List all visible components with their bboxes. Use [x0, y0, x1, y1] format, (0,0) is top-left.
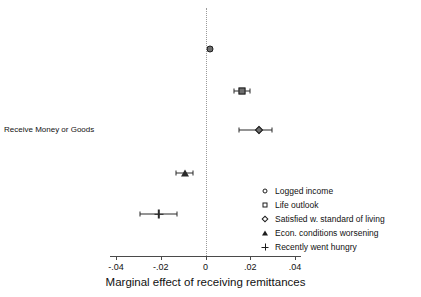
- estimate-marker-plus: [154, 210, 163, 219]
- confidence-interval-cap: [250, 89, 251, 94]
- x-axis-tick-label: 0: [203, 262, 208, 272]
- forest-plot-figure: Receive Money or Goods -.04-.020.02.04 M…: [0, 0, 421, 297]
- legend-label: Satisfied w. standard of living: [272, 214, 385, 224]
- legend-label: Econ. conditions worsening: [272, 228, 378, 238]
- legend-row[interactable]: Life outlook: [258, 198, 418, 212]
- legend-label: Logged income: [272, 186, 333, 196]
- x-axis-title: Marginal effect of receiving remittances: [106, 276, 306, 288]
- confidence-interval-cap: [271, 128, 272, 133]
- x-axis-tick: [295, 256, 296, 260]
- confidence-interval-cap: [193, 171, 194, 176]
- x-axis-tick-label: .02: [244, 262, 257, 272]
- legend-label: Life outlook: [272, 200, 318, 210]
- legend-marker-square-icon: [258, 198, 272, 212]
- legend-marker-circle-icon: [258, 184, 272, 198]
- legend-row[interactable]: Logged income: [258, 184, 418, 198]
- estimate-marker-triangle: [181, 170, 189, 177]
- x-axis-tick-label: -.02: [153, 262, 169, 272]
- x-axis-tick: [206, 256, 207, 260]
- confidence-interval-cap: [234, 89, 235, 94]
- x-axis-tick: [250, 256, 251, 260]
- legend: Logged incomeLife outlookSatisfied w. st…: [258, 184, 418, 254]
- x-axis-tick-label: .04: [289, 262, 302, 272]
- y-axis-category-label: Receive Money or Goods: [4, 125, 94, 134]
- legend-row[interactable]: Satisfied w. standard of living: [258, 212, 418, 226]
- x-axis-tick: [116, 256, 117, 260]
- confidence-interval-cap: [239, 128, 240, 133]
- zero-reference-line: [206, 8, 207, 256]
- legend-row[interactable]: Econ. conditions worsening: [258, 226, 418, 240]
- confidence-interval-cap: [140, 212, 141, 217]
- legend-row[interactable]: Recently went hungry: [258, 240, 418, 254]
- legend-marker-triangle-icon: [258, 226, 272, 240]
- x-axis-tick-label: -.04: [108, 262, 124, 272]
- confidence-interval-cap: [176, 171, 177, 176]
- legend-label: Recently went hungry: [272, 242, 357, 252]
- estimate-marker-circle: [206, 46, 213, 53]
- legend-marker-plus-icon: [258, 240, 272, 254]
- legend-marker-diamond-icon: [258, 212, 272, 226]
- confidence-interval-cap: [177, 212, 178, 217]
- estimate-marker-square: [238, 88, 245, 95]
- x-axis-tick: [161, 256, 162, 260]
- estimate-marker-diamond: [254, 126, 262, 134]
